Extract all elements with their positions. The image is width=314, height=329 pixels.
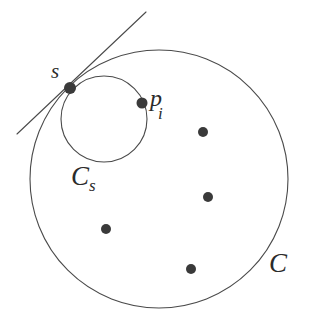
point-4-dot [186, 264, 196, 274]
label-s: s [51, 61, 59, 82]
label-circle-Cs-main: C [71, 161, 89, 191]
geometry-figure [0, 0, 314, 329]
point-1-dot [198, 127, 208, 137]
figure-container: s p i Cs C [0, 0, 314, 329]
label-circle-Cs-subscript: s [89, 176, 96, 195]
label-circle-C: C [269, 250, 287, 277]
point-3-dot [101, 224, 111, 234]
label-circle-Cs: Cs [71, 163, 96, 190]
tangent-line [17, 12, 146, 134]
point-2-dot [203, 192, 213, 202]
point-pi-dot [137, 98, 148, 109]
label-p-subscript: i [158, 105, 163, 122]
point-s-dot [64, 82, 76, 94]
